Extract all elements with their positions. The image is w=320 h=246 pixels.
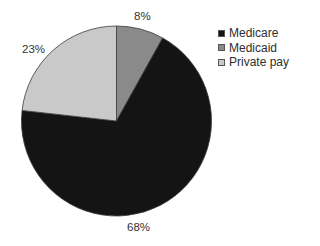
legend-swatch-medicaid — [218, 44, 225, 51]
legend-item-medicaid: Medicaid — [218, 41, 289, 56]
legend-item-private-pay: Private pay — [218, 55, 289, 70]
pie-slices — [22, 26, 212, 216]
legend-label-private-pay: Private pay — [229, 55, 289, 69]
legend-label-medicaid: Medicaid — [229, 41, 277, 55]
legend-swatch-private-pay — [218, 59, 225, 66]
legend-item-medicare: Medicare — [218, 26, 289, 41]
pie-slice-private-pay — [22, 26, 116, 121]
chart-legend: Medicare Medicaid Private pay — [218, 26, 289, 70]
slice-label-medicare: 68% — [127, 221, 150, 234]
legend-label-medicare: Medicare — [229, 26, 278, 40]
legend-swatch-medicare — [218, 30, 225, 37]
slice-label-medicaid: 8% — [134, 10, 151, 23]
slice-label-private-pay: 23% — [22, 43, 45, 56]
